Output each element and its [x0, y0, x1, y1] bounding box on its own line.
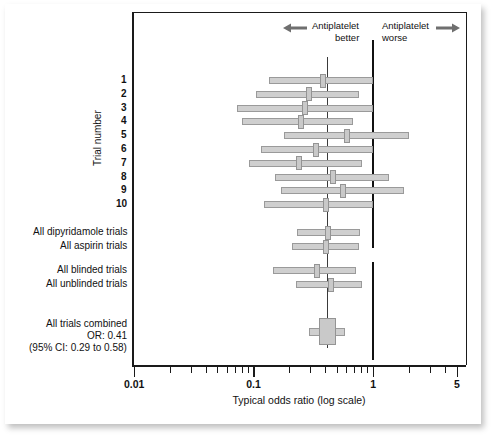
y-axis-trial-label: 8	[121, 171, 127, 182]
x-axis-major-tick	[134, 367, 136, 377]
y-axis-trial-label: 2	[121, 88, 127, 99]
point-estimate-marker	[298, 115, 304, 129]
point-estimate-marker	[323, 198, 329, 212]
x-axis-major-tick	[373, 367, 375, 377]
y-axis-trial-label: 4	[121, 115, 127, 126]
y-axis-trial-label: 10	[116, 198, 127, 209]
antiplatelet-worse-line-1: Antiplatelet	[382, 20, 429, 31]
plot-frame-right	[466, 12, 467, 365]
x-axis-minor-tick	[217, 367, 218, 373]
point-estimate-marker	[306, 87, 312, 101]
x-axis-minor-tick	[325, 367, 326, 373]
y-axis-trial-label: 9	[121, 184, 127, 195]
x-axis-tick-label: 0.1	[246, 378, 261, 390]
x-axis-major-tick	[253, 367, 255, 377]
y-axis-trial-label: 7	[121, 157, 127, 168]
point-estimate-marker	[314, 264, 320, 278]
null-reference-line	[372, 40, 374, 248]
x-axis-minor-tick	[409, 367, 410, 373]
x-axis-minor-tick	[445, 367, 446, 373]
x-axis-minor-tick	[235, 367, 236, 373]
x-axis-spine	[132, 365, 466, 367]
point-estimate-marker	[296, 156, 302, 170]
x-axis-minor-tick	[242, 367, 243, 373]
summary-row-label: All aspirin trials	[60, 240, 127, 251]
x-axis-tick-label: 0.01	[124, 378, 144, 390]
point-estimate-marker	[325, 226, 331, 240]
y-axis-trial-label: 6	[121, 143, 127, 154]
y-axis-trial-label: 1	[121, 74, 127, 85]
y-axis-trial-label: 5	[121, 129, 127, 140]
summary-row-label: All unblinded trials	[46, 278, 127, 289]
confidence-interval-bar	[242, 118, 352, 125]
overall-label-line-3: (95% CI: 0.29 to 0.58)	[29, 342, 127, 353]
y-axis-title: Trial number	[92, 110, 103, 166]
plot-frame-top	[132, 12, 466, 13]
left-arrow-icon	[282, 22, 308, 34]
point-estimate-marker	[344, 129, 350, 143]
x-axis-minor-tick	[206, 367, 207, 373]
point-estimate-marker	[319, 318, 336, 345]
x-axis-title: Typical odds ratio (log scale)	[233, 394, 366, 406]
x-axis-minor-tick	[289, 367, 290, 373]
point-estimate-marker	[320, 74, 326, 88]
point-estimate-marker	[323, 240, 329, 254]
point-estimate-marker	[313, 143, 319, 157]
summary-row-label: All blinded trials	[57, 264, 127, 275]
x-axis-minor-tick	[310, 367, 311, 373]
x-axis-minor-tick	[248, 367, 249, 373]
x-axis-minor-tick	[354, 367, 355, 373]
plot-area: 0.010.115Typical odds ratio (log scale)T…	[0, 0, 491, 435]
null-reference-line-lower	[372, 262, 374, 360]
x-axis-minor-tick	[346, 367, 347, 373]
x-axis-minor-tick	[367, 367, 368, 373]
point-estimate-marker	[340, 184, 346, 198]
y-axis-spine	[132, 12, 134, 365]
point-estimate-marker	[328, 278, 334, 292]
point-estimate-marker	[330, 170, 336, 184]
antiplatelet-better-line-2: better	[335, 32, 359, 43]
x-axis-minor-tick	[361, 367, 362, 373]
x-axis-minor-tick	[170, 367, 171, 373]
x-axis-minor-tick	[191, 367, 192, 373]
x-axis-minor-tick	[337, 367, 338, 373]
forest-plot-figure: 0.010.115Typical odds ratio (log scale)T…	[0, 0, 491, 435]
x-axis-tick-label: 1	[370, 378, 376, 390]
x-axis-minor-tick	[430, 367, 431, 373]
y-axis-trial-label: 3	[121, 102, 127, 113]
point-estimate-marker	[302, 101, 308, 115]
confidence-interval-bar	[249, 160, 361, 167]
x-axis-major-tick	[457, 367, 459, 377]
antiplatelet-better-line-1: Antiplatelet	[312, 20, 359, 31]
overall-label-line-1: All trials combined	[46, 318, 127, 329]
right-arrow-icon	[435, 22, 461, 34]
antiplatelet-worse-line-2: worse	[382, 32, 407, 43]
x-axis-minor-tick	[227, 367, 228, 373]
confidence-interval-bar	[264, 201, 373, 208]
summary-row-label: All dipyridamole trials	[33, 226, 127, 237]
x-axis-tick-label: 5	[454, 378, 460, 390]
overall-label-line-2: OR: 0.41	[87, 330, 127, 341]
